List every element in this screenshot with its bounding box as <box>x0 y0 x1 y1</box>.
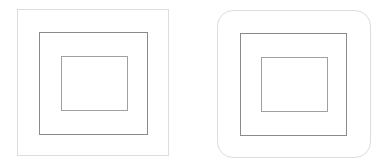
left-inner-box <box>61 56 128 111</box>
right-inner-box <box>261 57 328 112</box>
